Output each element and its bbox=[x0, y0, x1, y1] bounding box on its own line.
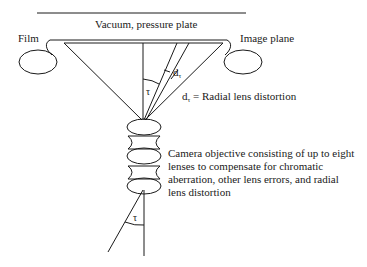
top-plate-label: Vacuum, pressure plate bbox=[95, 18, 197, 31]
lens-convex-1 bbox=[127, 119, 161, 135]
description-line-3: aberration, other lens errors, and radia… bbox=[168, 173, 363, 186]
tau-label-lower: τ bbox=[133, 211, 137, 224]
description-line-2: lenses to compensate for chromatic bbox=[168, 160, 363, 173]
lens-concave-1 bbox=[128, 136, 160, 149]
tau-label-upper: τ bbox=[146, 85, 150, 98]
description-line-1: Camera objective consisting of up to eig… bbox=[168, 147, 363, 160]
film-label: Film bbox=[18, 32, 39, 45]
film-reel-left bbox=[19, 50, 57, 74]
dr-def-text: = Radial lens distortion bbox=[190, 90, 296, 102]
ray-incoming bbox=[108, 190, 143, 252]
lens-convex-2 bbox=[127, 148, 161, 164]
description-line-4: lens distortion bbox=[168, 186, 363, 199]
dr-label: dτ bbox=[173, 66, 181, 83]
lens-concave-2 bbox=[128, 166, 160, 179]
dr-subscript: τ bbox=[179, 72, 182, 80]
cone-left bbox=[64, 43, 142, 120]
dr-definition: dτ = Radial lens distortion bbox=[182, 90, 296, 107]
ray-distorted bbox=[146, 43, 189, 120]
camera-lens-distortion-diagram bbox=[0, 0, 367, 267]
film-reel-right bbox=[224, 50, 262, 74]
image-plane-label: Image plane bbox=[240, 32, 294, 45]
camera-objective-description: Camera objective consisting of up to eig… bbox=[168, 147, 363, 199]
cone-right bbox=[145, 43, 223, 120]
tau-arc-upper bbox=[143, 79, 159, 84]
